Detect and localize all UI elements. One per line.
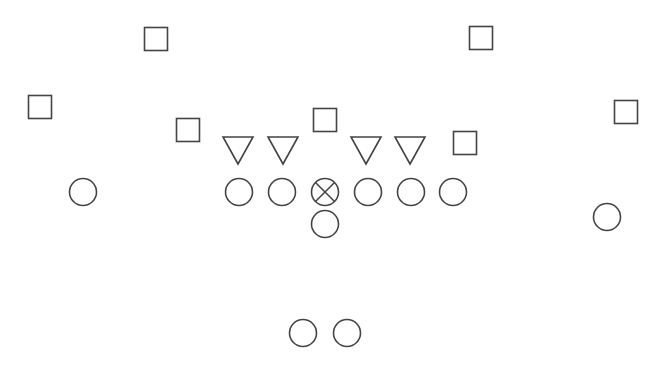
formation-canvas bbox=[0, 0, 655, 371]
offense-player-circle-icon bbox=[334, 320, 361, 347]
defender-square-icon bbox=[314, 109, 337, 132]
defender-triangle-icon bbox=[268, 137, 298, 164]
defender-square-icon bbox=[470, 27, 493, 50]
defender-square-icon bbox=[145, 28, 168, 51]
offense-player-circle-icon bbox=[355, 179, 382, 206]
offense-player-circle-icon bbox=[70, 179, 97, 206]
offense-player-circle-icon bbox=[290, 320, 317, 347]
offense-player-circle-icon bbox=[398, 179, 425, 206]
defender-triangle-icon bbox=[223, 137, 253, 164]
offense-player-circle-icon bbox=[312, 211, 339, 238]
defender-triangle-icon bbox=[351, 137, 381, 164]
defender-square-icon bbox=[615, 101, 638, 124]
defender-square-icon bbox=[177, 119, 200, 142]
defender-triangle-icon bbox=[395, 137, 425, 164]
offense-player-circle-icon bbox=[269, 179, 296, 206]
defender-square-icon bbox=[29, 96, 52, 119]
defender-square-icon bbox=[454, 132, 477, 155]
offense-player-circle-icon bbox=[594, 204, 621, 231]
offense-player-circle-icon bbox=[226, 179, 253, 206]
formation-diagram bbox=[0, 0, 655, 371]
offense-player-circle-icon bbox=[440, 179, 467, 206]
